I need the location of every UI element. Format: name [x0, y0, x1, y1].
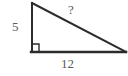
triangle-hypotenuse [32, 3, 126, 52]
horizontal-leg-label: 12 [61, 57, 74, 70]
vertical-leg-label: 5 [12, 20, 19, 33]
geometry-figure: 5 ? 12 [0, 0, 128, 76]
hypotenuse-label: ? [68, 3, 74, 16]
right-angle-marker-icon [32, 44, 39, 51]
